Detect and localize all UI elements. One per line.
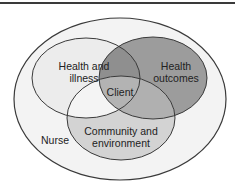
label-nurse: Nurse <box>38 134 72 146</box>
label-health-outcomes-line1: Health <box>146 60 206 72</box>
label-community-environment: Community and environment <box>78 125 164 149</box>
label-health-illness: Health and illness <box>48 60 120 84</box>
label-health-outcomes: Health outcomes <box>146 60 206 84</box>
label-community-line1: Community and <box>78 125 164 137</box>
label-health-illness-line1: Health and <box>48 60 120 72</box>
label-community-line2: environment <box>78 137 164 149</box>
label-client: Client <box>104 86 136 98</box>
label-health-outcomes-line2: outcomes <box>146 72 206 84</box>
label-health-illness-line2: illness <box>48 72 120 84</box>
